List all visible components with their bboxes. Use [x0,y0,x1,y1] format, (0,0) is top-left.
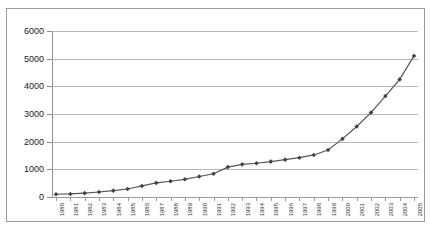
data-point-marker [154,181,159,186]
x-axis-tick [85,197,86,201]
series-markers [54,54,417,197]
y-axis-tick-label: 4000 [24,81,44,91]
x-axis-tick [357,197,358,201]
data-point-marker [140,184,145,189]
data-point-marker [197,174,202,179]
x-axis-tick [400,197,401,201]
x-axis-tick [70,197,71,201]
x-axis-tick [271,197,272,201]
x-axis-tick-label: 1986 [144,203,150,216]
x-axis-tick [285,197,286,201]
x-axis-tick-label: 1988 [173,203,179,216]
x-axis-tick-label: 1985 [130,203,136,216]
x-axis-tick-label: 1996 [288,203,294,216]
x-axis-line [52,197,418,198]
chart-figure-frame: 0100020003000400050006000 19801981198219… [6,8,425,222]
x-axis-tick-label: 1993 [245,203,251,216]
x-axis-tick [56,197,57,201]
x-axis-tick [128,197,129,201]
x-axis-tick [156,197,157,201]
x-axis-tick-label: 1989 [187,203,193,216]
data-point-marker [311,153,316,158]
data-point-marker [168,179,173,184]
x-axis-tick [314,197,315,201]
x-axis-tick [199,197,200,201]
x-axis-tick [142,197,143,201]
x-axis-tick [299,197,300,201]
x-axis-tick [385,197,386,201]
data-point-marker [226,165,231,170]
x-axis-tick [342,197,343,201]
data-point-marker [125,187,130,192]
x-axis-tick-label: 2004 [402,203,408,216]
x-axis-tick [171,197,172,201]
x-axis-tick-label: 1990 [202,203,208,216]
x-axis-tick [256,197,257,201]
x-axis-tick-label: 1984 [116,203,122,216]
y-axis-tick-label: 6000 [24,26,44,36]
x-axis-tick [185,197,186,201]
data-point-marker [211,171,216,176]
data-point-marker [283,157,288,162]
x-axis-tick-label: 1981 [73,203,79,216]
y-axis-tick-label: 1000 [24,164,44,174]
x-axis-tick [242,197,243,201]
x-axis-tick-label: 1998 [316,203,322,216]
x-axis-tick [228,197,229,201]
data-point-marker [54,192,59,197]
data-point-marker [183,177,188,182]
data-point-marker [254,161,259,166]
x-axis-tick-label: 2001 [359,203,365,216]
x-axis-tick-label: 2005 [417,203,423,216]
x-axis-tick-label: 1995 [273,203,279,216]
x-axis-tick-label: 2000 [345,203,351,216]
x-axis-tick [99,197,100,201]
data-point-marker [111,188,116,193]
data-point-marker [240,162,245,167]
y-axis-tick-label: 3000 [24,109,44,119]
x-axis-tick-label: 1997 [302,203,308,216]
y-axis-tick [47,197,52,198]
x-axis-tick-label: 1992 [230,203,236,216]
x-axis-tick-label: 1983 [101,203,107,216]
x-axis-tick [414,197,415,201]
series-line-group [52,31,418,197]
data-point-marker [297,155,302,160]
y-axis-tick-label: 2000 [24,137,44,147]
data-point-marker [97,190,102,195]
x-axis-tick-label: 2002 [374,203,380,216]
data-point-marker [269,159,274,164]
x-axis-tick-label: 1994 [259,203,265,216]
x-axis-tick-label: 1999 [331,203,337,216]
x-axis-tick [328,197,329,201]
y-axis-tick-label: 0 [39,192,44,202]
x-axis-tick-label: 2003 [388,203,394,216]
data-point-marker [82,191,87,196]
y-axis-tick-label: 5000 [24,54,44,64]
x-axis-tick [113,197,114,201]
x-axis-tick [371,197,372,201]
x-axis-tick-label: 1991 [216,203,222,216]
x-axis-tick-label: 1982 [87,203,93,216]
series-line [56,56,414,194]
x-axis-tick-label: 1987 [159,203,165,216]
data-point-marker [68,192,73,197]
x-axis-tick [214,197,215,201]
plot-area: 0100020003000400050006000 19801981198219… [52,31,418,197]
x-axis-tick-label: 1980 [59,203,65,216]
